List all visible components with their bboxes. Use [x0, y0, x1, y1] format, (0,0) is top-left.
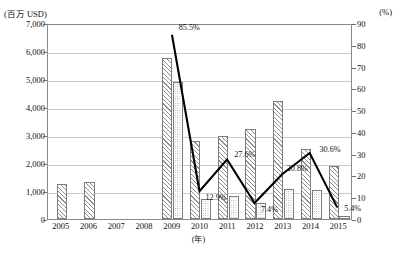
y-axis-tick-label: 7,000 — [3, 20, 45, 29]
percent-data-label: 30.6% — [319, 146, 340, 154]
y-axis-tick-label: 3,000 — [3, 132, 45, 141]
y2-axis-tick-label: 80 — [357, 42, 391, 51]
y2-axis-tick-mark — [352, 155, 356, 156]
y2-axis-tick-label: 90 — [357, 20, 391, 29]
y-axis-tick-label: 0 — [3, 216, 45, 225]
y2-axis-tick-label: 10 — [357, 194, 391, 203]
y2-axis-tick-mark — [352, 68, 356, 69]
y2-axis-tick-label: 30 — [357, 151, 391, 160]
y2-axis-tick-mark — [352, 133, 356, 134]
y2-axis-tick-label: 40 — [357, 129, 391, 138]
x-axis-title: (年) — [0, 233, 397, 244]
y-axis-tick-label: 1,000 — [3, 188, 45, 197]
y2-axis-tick-label: 60 — [357, 85, 391, 94]
percent-data-label: 12.9% — [206, 194, 227, 202]
plot-area: 85.5%12.9%27.6%7.4%20.8%30.6%5.4% — [47, 24, 352, 220]
y2-axis-tick-mark — [352, 220, 356, 221]
left-axis-unit-label: (百万 USD) — [4, 7, 47, 19]
y-axis-tick-mark — [43, 108, 47, 109]
percent-data-label: 7.4% — [261, 206, 278, 214]
y-axis-tick-mark — [43, 136, 47, 137]
y2-axis-tick-label: 70 — [357, 64, 391, 73]
y-axis-tick-mark — [43, 192, 47, 193]
chart-container: (百万 USD) (%) 85.5%12.9%27.6%7.4%20.8%30.… — [0, 0, 397, 258]
y2-axis-tick-mark — [352, 176, 356, 177]
right-axis-unit-label: (%) — [379, 7, 392, 17]
y-axis-tick-mark — [43, 164, 47, 165]
y2-axis-tick-mark — [352, 89, 356, 90]
y-axis-tick-label: 6,000 — [3, 48, 45, 57]
percent-data-label: 27.6% — [234, 151, 255, 159]
x-axis-tick-label: 2015 — [318, 222, 358, 231]
y2-axis-tick-mark — [352, 198, 356, 199]
y2-axis-tick-label: 0 — [357, 216, 391, 225]
y-axis-tick-mark — [43, 52, 47, 53]
y-axis-tick-mark — [43, 220, 47, 221]
percent-data-label: 20.8% — [287, 165, 308, 173]
y-axis-tick-label: 5,000 — [3, 76, 45, 85]
y-axis-tick-mark — [43, 80, 47, 81]
percent-data-label: 85.5% — [179, 24, 200, 32]
y2-axis-tick-label: 50 — [357, 107, 391, 116]
y-axis-tick-label: 4,000 — [3, 104, 45, 113]
y2-axis-tick-label: 20 — [357, 172, 391, 181]
y-axis-tick-label: 2,000 — [3, 160, 45, 169]
y2-axis-tick-mark — [352, 24, 356, 25]
percent-line-series — [48, 25, 351, 219]
y2-axis-tick-mark — [352, 111, 356, 112]
y-axis-tick-mark — [43, 24, 47, 25]
percent-data-label: 5.4% — [344, 205, 361, 213]
y2-axis-tick-mark — [352, 46, 356, 47]
